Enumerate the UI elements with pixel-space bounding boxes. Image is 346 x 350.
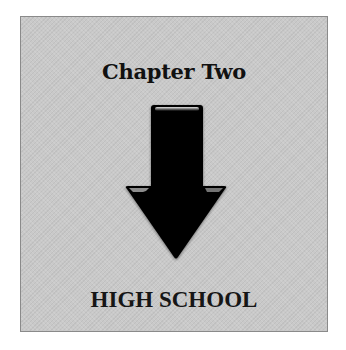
- chapter-card: Chapter Two HIGH SCHOOL: [20, 16, 328, 332]
- down-arrow-icon: [21, 17, 329, 333]
- section-title: HIGH SCHOOL: [21, 287, 327, 313]
